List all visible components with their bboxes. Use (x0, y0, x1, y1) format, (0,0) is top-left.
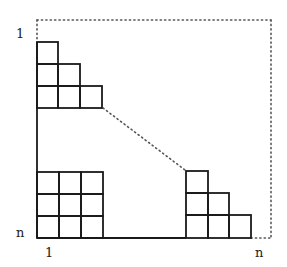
bottom-right-staircase (186, 171, 251, 238)
young-diagram-figure: 1 n 1 n (0, 0, 287, 267)
diagonal-dotted-line (103, 108, 185, 170)
row-label-bottom: n (16, 225, 25, 240)
dotted-frame (37, 20, 271, 238)
row-label-top: 1 (16, 26, 24, 41)
bottom-left-grid (37, 172, 103, 238)
col-label-right: n (255, 245, 264, 260)
top-left-staircase (37, 42, 102, 108)
col-label-left: 1 (45, 245, 53, 260)
